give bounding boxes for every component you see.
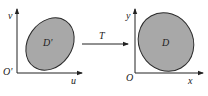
u-axis-label: u [71,76,76,86]
origin-label: O [126,73,133,83]
y-axis-label: y [126,11,130,21]
region-d-prime-label: D' [43,38,52,48]
x-axis-label: x [188,76,192,86]
diagram-canvas [0,0,208,96]
origin-prime-label: O' [3,67,12,77]
region-d-label: D [162,38,169,48]
transformation-label: T [99,31,105,41]
transformation-diagram: v u O' D' T y x O D [0,0,208,96]
v-axis-label: v [8,11,12,21]
